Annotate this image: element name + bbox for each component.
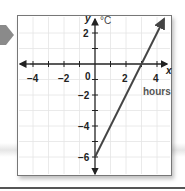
y-tick-label: −2 xyxy=(78,90,90,101)
y-tick-label: −4 xyxy=(78,121,90,132)
y-tick-label: 2 xyxy=(83,28,89,39)
y-tick-label: −6 xyxy=(78,152,90,163)
x-tick-label: 2 xyxy=(122,73,128,84)
x-tick-label: −2 xyxy=(58,73,70,84)
y-unit-label: °C xyxy=(100,15,111,26)
origin-label: 0 xyxy=(85,71,91,82)
y-axis-label: y xyxy=(84,13,91,24)
x-unit-label: hours xyxy=(143,86,171,97)
line-graph: y °C x hours −4 −2 0 2 4 2 −2 −4 −6 xyxy=(0,0,185,191)
x-tick-label: −4 xyxy=(27,73,39,84)
x-axis-label: x xyxy=(165,65,172,76)
x-tick-label: 4 xyxy=(153,73,159,84)
